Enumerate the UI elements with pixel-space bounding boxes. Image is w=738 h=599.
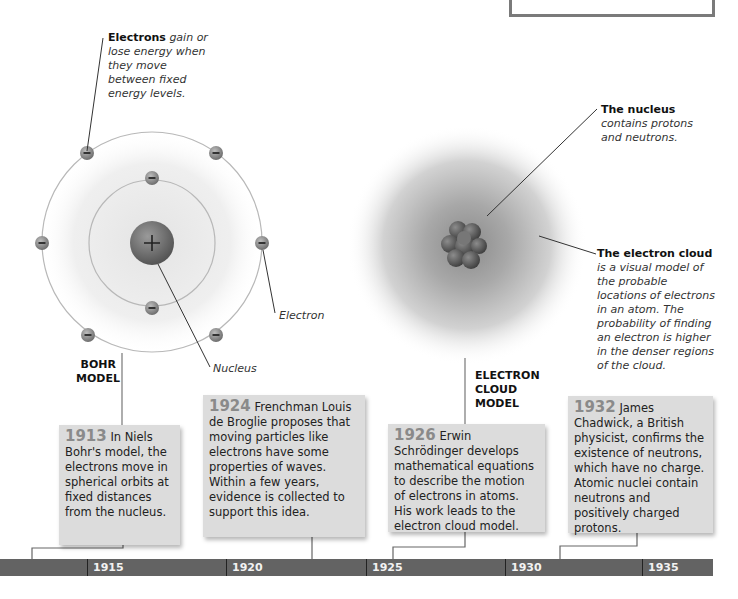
timeline-card-1913: 1913 In Niels Bohr's model, the electron… (59, 425, 180, 545)
timeline-bar: 1915 1920 1925 1930 1935 (0, 559, 713, 576)
callout-nucleus: The nucleus contains protons and neutron… (601, 103, 711, 145)
timeline-tick-1935: 1935 (642, 559, 679, 576)
timeline-card-1926: 1926 Erwin Schrödinger develops mathemat… (388, 424, 545, 532)
timeline-tick-1925: 1925 (366, 559, 403, 576)
callout-electron-cloud: The electron cloud is a visual model of … (597, 247, 719, 373)
callout-electrons-energy: Electrons gain or lose energy when they … (108, 31, 208, 101)
timeline-card-1924: 1924 Frenchman Louis de Broglie proposes… (203, 395, 365, 537)
electron-cloud-model-label: ELECTRON CLOUD MODEL (475, 369, 540, 411)
label-nucleus: Nucleus (213, 362, 257, 376)
timeline-tick-1930: 1930 (505, 559, 542, 576)
timeline-tick-1915: 1915 (87, 559, 124, 576)
label-electron: Electron (279, 309, 324, 323)
timeline-card-1932: 1932 James Chadwick, a British physicist… (568, 396, 713, 533)
timeline-tick-1920: 1920 (226, 559, 263, 576)
electron-cloud-model (347, 109, 597, 424)
bohr-model-label: BOHR MODEL (76, 358, 116, 386)
